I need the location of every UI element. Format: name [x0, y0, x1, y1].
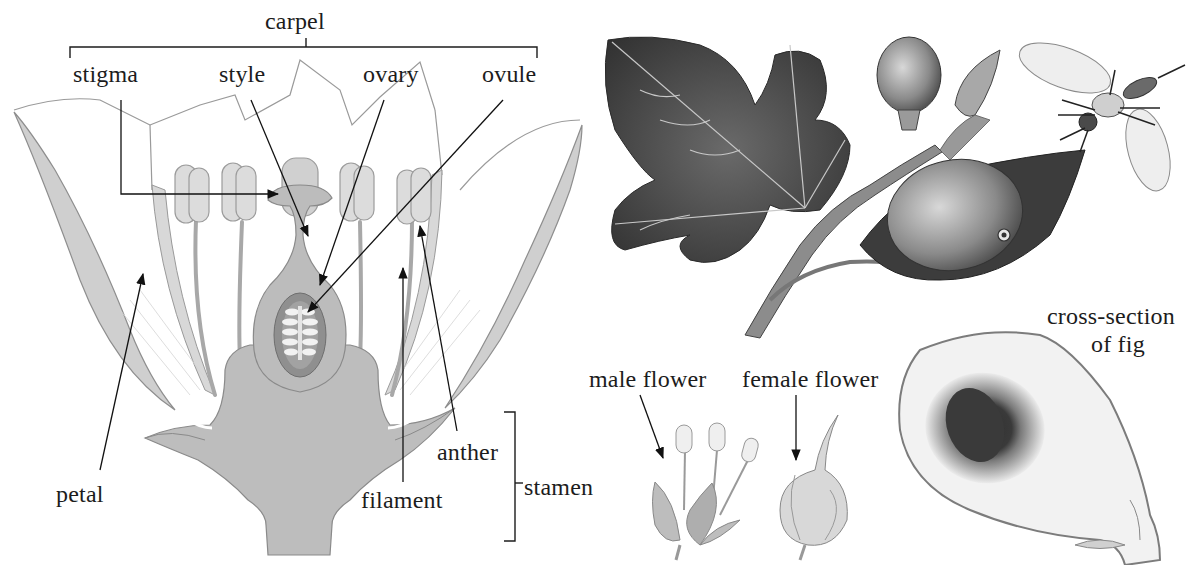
- ovules: [282, 306, 318, 360]
- flower-longitudinal-section: [14, 38, 582, 555]
- female-flower-illustration: [780, 395, 847, 560]
- petal-right: [445, 125, 582, 408]
- diagram-artwork: [0, 0, 1195, 565]
- fig-branch-illustration: [605, 33, 1185, 338]
- stamen-bracket: [504, 412, 523, 541]
- label-stigma: stigma: [73, 62, 138, 86]
- label-cross-section-line1: cross-section: [1047, 304, 1175, 328]
- anther-leader: [420, 226, 457, 431]
- label-cross-section-line2: of fig: [1091, 332, 1145, 356]
- label-stamen: stamen: [524, 475, 593, 499]
- carpel-bracket: [70, 38, 537, 58]
- fig-cross-section-illustration: [899, 332, 1160, 565]
- label-ovary: ovary: [363, 62, 419, 86]
- label-style: style: [219, 62, 265, 86]
- label-ovule: ovule: [482, 62, 536, 86]
- male-flower-illustration: [640, 395, 760, 560]
- fig-fruit-small: [877, 37, 941, 113]
- label-filament: filament: [361, 488, 443, 512]
- label-anther: anther: [437, 440, 498, 464]
- fig-bud: [955, 50, 1000, 116]
- ovule-leader: [308, 100, 503, 312]
- flower-and-fig-diagram: carpel stigma style ovary ovule petal fi…: [0, 0, 1195, 565]
- label-male-flower: male flower: [589, 367, 706, 391]
- label-petal: petal: [56, 482, 104, 506]
- label-female-flower: female flower: [742, 367, 879, 391]
- male-flower-arrow: [640, 395, 663, 458]
- label-carpel: carpel: [265, 9, 325, 33]
